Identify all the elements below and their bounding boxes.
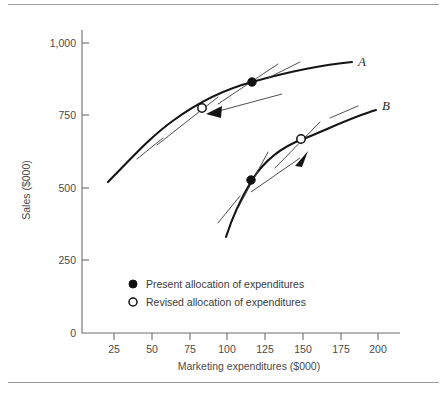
tangent-revised-b (275, 122, 320, 168)
sales-response-chart: 1,000 750 500 250 0 25 50 75 100 125 150… (0, 0, 447, 395)
x-tick-label-100: 100 (218, 343, 236, 355)
shift-arrow-b-shaft (251, 158, 300, 192)
curve-label-a: A (357, 54, 366, 69)
y-tick-label-750: 750 (58, 109, 76, 121)
revised-point-b[interactable] (297, 135, 305, 143)
x-axis-title: Marketing expenditures ($000) (178, 360, 320, 372)
y-tick-label-250: 250 (58, 254, 76, 266)
tangent-segment-b-upper (330, 106, 358, 118)
y-tick-label-1000: 1,000 (50, 37, 76, 49)
y-axis-tick-labels: 1,000 750 500 250 0 (50, 37, 76, 339)
legend-label-present: Present allocation of expenditures (146, 278, 304, 290)
shift-arrow-a-shaft (215, 94, 282, 112)
x-tick-label-125: 125 (256, 343, 274, 355)
present-point-a[interactable] (248, 78, 256, 86)
y-axis-title: Sales ($000) (20, 160, 32, 220)
shift-arrow-b-head (295, 151, 308, 167)
y-tick-label-0: 0 (70, 327, 76, 339)
x-tick-label-175: 175 (332, 343, 350, 355)
response-curve-b (226, 110, 376, 237)
present-point-b[interactable] (247, 176, 255, 184)
figure-container: 1,000 750 500 250 0 25 50 75 100 125 150… (0, 0, 447, 395)
tangent-revised-a (157, 97, 218, 145)
legend-marker-revised-icon (129, 298, 137, 306)
y-axis-ticks (82, 43, 89, 260)
curve-label-b: B (382, 98, 390, 113)
legend-label-revised: Revised allocation of expenditures (146, 296, 306, 308)
x-tick-label-200: 200 (369, 343, 387, 355)
revised-point-a[interactable] (198, 104, 206, 112)
tangent-segment-a-upper (268, 62, 300, 78)
x-tick-label-75: 75 (184, 343, 196, 355)
legend-marker-present-icon (129, 280, 137, 288)
shift-arrow-a-head (206, 106, 222, 118)
y-tick-label-500: 500 (58, 182, 76, 194)
chart-legend: Present allocation of expenditures Revis… (129, 278, 306, 308)
x-tick-label-25: 25 (108, 343, 120, 355)
x-axis-ticks (114, 333, 378, 340)
response-curve-a (108, 62, 352, 182)
x-tick-label-50: 50 (146, 343, 158, 355)
x-axis-tick-labels: 25 50 75 100 125 150 175 200 (108, 343, 387, 355)
x-tick-label-150: 150 (294, 343, 312, 355)
